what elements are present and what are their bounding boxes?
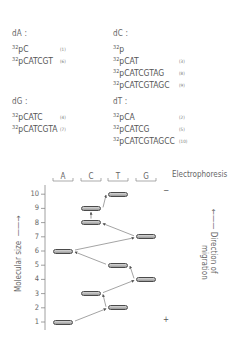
- gel-lines: [0, 0, 245, 340]
